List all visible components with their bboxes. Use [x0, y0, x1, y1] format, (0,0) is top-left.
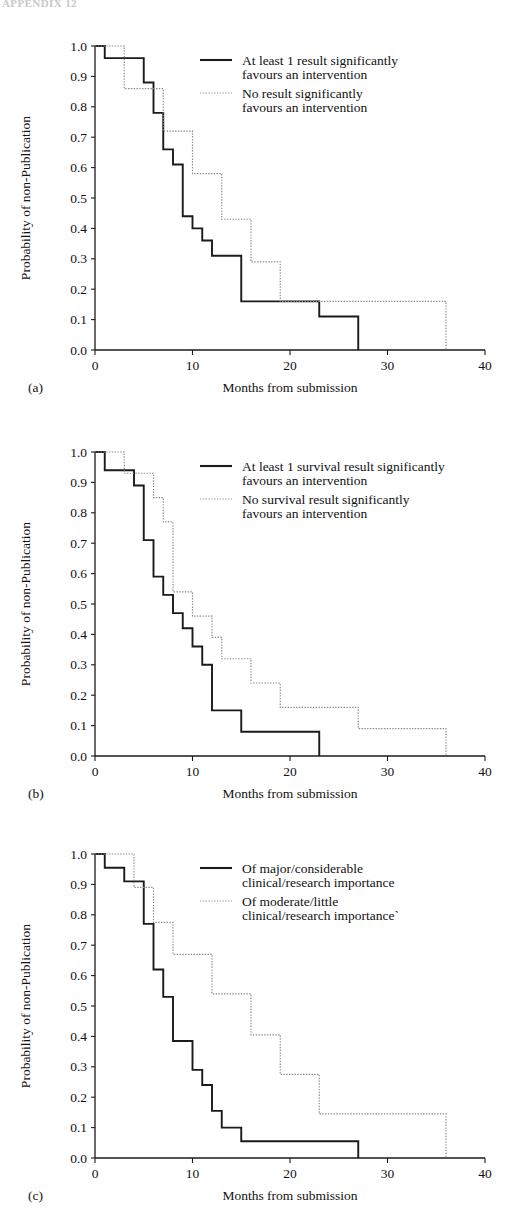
y-ticks: 0.00.10.20.30.40.50.60.70.80.91.0 — [70, 39, 95, 358]
x-tick-label: 30 — [381, 764, 395, 779]
legend-label-1-line2: favours an intervention — [242, 67, 367, 82]
y-tick-label: 0.0 — [70, 749, 87, 764]
y-tick-label: 0.9 — [70, 877, 87, 892]
y-tick-label: 0.1 — [70, 1120, 87, 1135]
panel-letter: (c) — [28, 1188, 43, 1203]
x-tick-label: 40 — [478, 358, 492, 373]
legend-label-1-line2: clinical/research importance — [242, 875, 395, 890]
legend: At least 1 survival result significantly… — [200, 459, 445, 521]
x-axis-title: Months from submission — [222, 1188, 357, 1203]
y-tick-label: 0.6 — [70, 968, 87, 983]
legend: Of major/considerableclinical/research i… — [200, 861, 399, 923]
x-tick-label: 40 — [478, 1166, 492, 1181]
y-tick-label: 0.8 — [70, 907, 87, 922]
y-tick-label: 0.7 — [70, 536, 87, 551]
legend-label-1-line1: At least 1 result significantly — [242, 53, 398, 68]
legend-label-1-line1: At least 1 survival result significantly — [242, 459, 445, 474]
legend-label-2-line1: No result significantly — [242, 86, 363, 101]
legend-label-1-line2: favours an intervention — [242, 473, 367, 488]
legend-label-2-line2: favours an intervention — [242, 506, 367, 521]
y-tick-label: 0.3 — [70, 657, 87, 672]
y-tick-label: 0.7 — [70, 938, 87, 953]
legend: At least 1 result significantlyfavours a… — [200, 53, 398, 115]
y-tick-label: 0.4 — [70, 1029, 87, 1044]
y-tick-label: 0.4 — [70, 221, 87, 236]
y-tick-label: 1.0 — [70, 847, 87, 862]
page-header: APPENDIX 12 — [0, 0, 523, 14]
survival-chart-c: 0.00.10.20.30.40.50.60.70.80.91.00102030… — [0, 822, 523, 1222]
x-ticks: 010203040 — [92, 756, 492, 779]
panel-letter: (b) — [28, 786, 44, 801]
x-tick-label: 0 — [92, 358, 99, 373]
y-tick-label: 0.2 — [70, 1090, 87, 1105]
y-tick-label: 0.2 — [70, 282, 87, 297]
chart-panel-c: 0.00.10.20.30.40.50.60.70.80.91.00102030… — [0, 822, 523, 1222]
y-tick-label: 0.5 — [70, 999, 87, 1014]
x-tick-label: 10 — [186, 764, 200, 779]
y-tick-label: 0.5 — [70, 191, 87, 206]
y-tick-label: 0.6 — [70, 160, 87, 175]
survival-chart-a: 0.00.10.20.30.40.50.60.70.80.91.00102030… — [0, 14, 523, 414]
y-tick-label: 0.5 — [70, 597, 87, 612]
page-header-text: APPENDIX 12 — [2, 0, 523, 9]
legend-label-2-line2: clinical/research importance` — [242, 908, 399, 923]
y-tick-label: 0.8 — [70, 505, 87, 520]
chart-panel-a: 0.00.10.20.30.40.50.60.70.80.91.00102030… — [0, 14, 523, 414]
legend-label-2-line2: favours an intervention — [242, 100, 367, 115]
x-tick-label: 10 — [186, 358, 200, 373]
y-axis-title: Probability of non-Publication — [18, 522, 33, 686]
x-tick-label: 10 — [186, 1166, 200, 1181]
x-ticks: 010203040 — [92, 1158, 492, 1181]
y-tick-label: 0.0 — [70, 1151, 87, 1166]
y-tick-label: 1.0 — [70, 39, 87, 54]
x-tick-label: 0 — [92, 764, 99, 779]
y-ticks: 0.00.10.20.30.40.50.60.70.80.91.0 — [70, 847, 95, 1166]
legend-label-2-line1: Of moderate/little — [242, 894, 338, 909]
y-tick-label: 0.4 — [70, 627, 87, 642]
panel-letter: (a) — [28, 380, 43, 395]
y-axis-title: Probability of non-Publication — [18, 116, 33, 280]
x-tick-label: 0 — [92, 1166, 99, 1181]
x-tick-label: 30 — [381, 1166, 395, 1181]
y-tick-label: 0.3 — [70, 1059, 87, 1074]
y-tick-label: 1.0 — [70, 445, 87, 460]
x-ticks: 010203040 — [92, 350, 492, 373]
chart-panel-b: 0.00.10.20.30.40.50.60.70.80.91.00102030… — [0, 420, 523, 820]
legend-label-1-line1: Of major/considerable — [242, 861, 363, 876]
y-tick-label: 0.3 — [70, 251, 87, 266]
legend-label-2-line1: No survival result significantly — [242, 492, 410, 507]
y-ticks: 0.00.10.20.30.40.50.60.70.80.91.0 — [70, 445, 95, 764]
x-tick-label: 30 — [381, 358, 395, 373]
y-tick-label: 0.1 — [70, 312, 87, 327]
y-tick-label: 0.2 — [70, 688, 87, 703]
y-axis-title: Probability of non-Publication — [18, 924, 33, 1088]
y-tick-label: 0.0 — [70, 343, 87, 358]
y-tick-label: 0.7 — [70, 130, 87, 145]
y-tick-label: 0.8 — [70, 99, 87, 114]
x-axis-title: Months from submission — [222, 786, 357, 801]
x-tick-label: 40 — [478, 764, 492, 779]
y-tick-label: 0.9 — [70, 475, 87, 490]
x-tick-label: 20 — [283, 1166, 297, 1181]
x-axis-title: Months from submission — [222, 380, 357, 395]
y-tick-label: 0.6 — [70, 566, 87, 581]
x-tick-label: 20 — [283, 764, 297, 779]
y-tick-label: 0.9 — [70, 69, 87, 84]
y-tick-label: 0.1 — [70, 718, 87, 733]
survival-chart-b: 0.00.10.20.30.40.50.60.70.80.91.00102030… — [0, 420, 523, 820]
x-tick-label: 20 — [283, 358, 297, 373]
